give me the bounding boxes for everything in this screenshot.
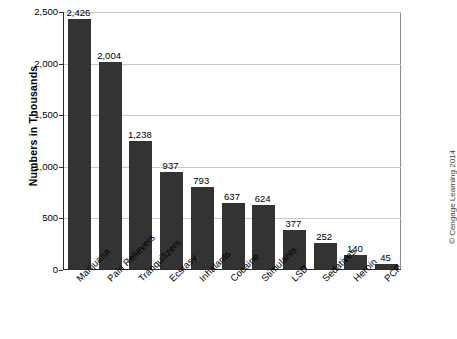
bar-value-label: 377 <box>271 218 315 229</box>
y-tick-label: 0 <box>18 265 58 275</box>
bar-value-label: 45 <box>364 252 408 263</box>
bar <box>99 62 122 269</box>
gridline <box>64 12 401 13</box>
y-tick-mark <box>59 167 63 168</box>
bar-value-label: 793 <box>179 175 223 186</box>
y-tick-mark <box>59 218 63 219</box>
y-tick-mark <box>59 270 63 271</box>
bar-value-label: 624 <box>241 193 285 204</box>
bar-value-label: 937 <box>149 160 193 171</box>
bar-value-label: 1,238 <box>118 129 162 140</box>
y-tick-mark <box>59 64 63 65</box>
bar-value-label: 252 <box>302 231 346 242</box>
y-tick-mark <box>59 115 63 116</box>
y-tick-label: 1,500 <box>18 110 58 120</box>
bar-value-label: 2,004 <box>87 50 131 61</box>
credit-text: © Cengage Learning 2014 <box>448 150 457 244</box>
y-tick-label: 500 <box>18 213 58 223</box>
y-tick-label: 1,000 <box>18 162 58 172</box>
y-tick-label: 2,000 <box>18 59 58 69</box>
bar-value-label: 2,426 <box>56 7 100 18</box>
y-tick-label: 2,500 <box>18 7 58 17</box>
